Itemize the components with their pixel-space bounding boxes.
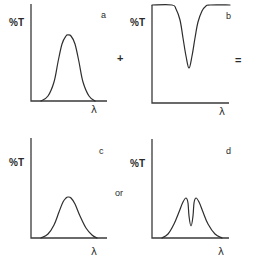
or-operator: or xyxy=(115,188,123,198)
panel-d: %T d λ xyxy=(130,139,231,257)
panel-b-ylabel: %T xyxy=(130,17,145,28)
panel-a-xlabel: λ xyxy=(91,104,97,115)
panel-b: %T b λ xyxy=(130,5,231,117)
transmission-spectra-diagram: %T a λ %T b λ %T c λ %T d λ + = or xyxy=(0,0,257,264)
panel-a-curve xyxy=(41,35,95,101)
panel-a-letter: a xyxy=(101,10,106,20)
panel-c-curve xyxy=(41,197,97,238)
equals-operator: = xyxy=(235,54,241,66)
panel-b-axes xyxy=(152,5,229,103)
panel-d-curve xyxy=(162,198,222,238)
panel-b-letter: b xyxy=(226,11,231,21)
panel-c-xlabel: λ xyxy=(91,246,97,257)
panel-d-letter: d xyxy=(226,146,231,156)
panel-b-xlabel: λ xyxy=(219,106,225,117)
panel-b-curve xyxy=(152,5,230,68)
panel-a-ylabel: %T xyxy=(9,17,24,28)
panel-a: %T a λ xyxy=(9,4,107,115)
plus-operator: + xyxy=(117,52,123,64)
panel-c: %T c λ xyxy=(9,138,107,257)
panel-d-xlabel: λ xyxy=(218,246,224,257)
panel-c-axes xyxy=(31,138,107,238)
panel-d-ylabel: %T xyxy=(130,158,145,169)
panel-a-axes xyxy=(31,4,107,101)
panel-c-letter: c xyxy=(99,146,104,156)
panel-c-ylabel: %T xyxy=(9,157,24,168)
